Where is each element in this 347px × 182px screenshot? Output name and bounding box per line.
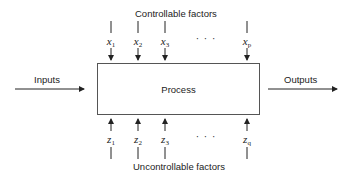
uncontrollable-ellipsis: · · ·: [196, 131, 217, 142]
controllable-arrows: [111, 21, 247, 60]
factor-z3: z3: [161, 133, 169, 147]
inputs-label: Inputs: [34, 74, 60, 85]
uncontrollable-factors-title: Uncontrollable factors: [133, 161, 225, 172]
process-diagram: Controllable factors x1 x2 x3 · · · xp I…: [0, 0, 347, 182]
factor-x2: x2: [134, 35, 142, 49]
factor-x3: x3: [161, 35, 169, 49]
factor-zq: zq: [243, 133, 251, 147]
uncontrollable-arrows: [111, 119, 247, 159]
process-label: Process: [98, 64, 259, 114]
process-box: Process: [97, 63, 260, 115]
factor-z1: z1: [107, 133, 115, 147]
factor-z2: z2: [134, 133, 142, 147]
outputs-label: Outputs: [284, 74, 317, 85]
factor-x1: x1: [107, 35, 115, 49]
controllable-factors-title: Controllable factors: [135, 8, 217, 19]
controllable-ellipsis: · · ·: [196, 33, 217, 44]
factor-xp: xp: [243, 35, 251, 49]
